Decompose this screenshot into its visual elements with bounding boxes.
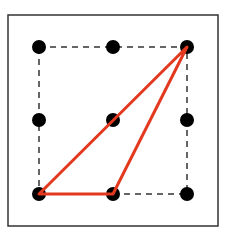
grid-dot <box>32 40 46 54</box>
grid-dot <box>32 113 46 127</box>
grid-dot <box>180 187 194 201</box>
grid-dot <box>180 113 194 127</box>
grid-dot <box>106 40 120 54</box>
red-triangle <box>39 47 187 194</box>
geoboard-diagram <box>0 0 225 233</box>
